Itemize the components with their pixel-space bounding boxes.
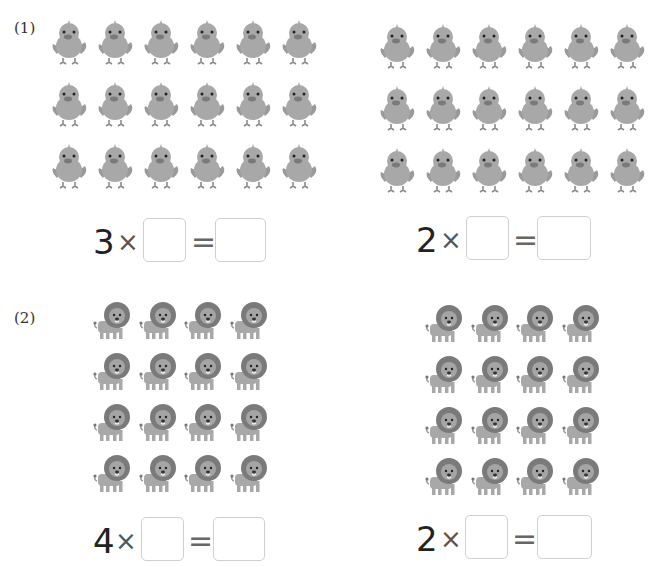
chick-grid-right: [377, 22, 656, 202]
chick-grid-left: [49, 18, 339, 198]
chick-icon: [561, 22, 601, 70]
chick-icon: [469, 84, 509, 132]
lion-icon: [92, 352, 132, 392]
chick-icon: [187, 142, 227, 190]
chick-icon: [515, 22, 555, 70]
product-answer-box[interactable]: [537, 216, 591, 260]
chick-icon: [233, 80, 273, 128]
equation-1b: 2 × =: [416, 216, 596, 262]
chick-icon: [561, 22, 601, 70]
chick-icon: [187, 80, 227, 128]
multiplicand: 2: [416, 519, 438, 559]
chick-icon: [377, 146, 417, 194]
problem-1-label: (1): [14, 19, 35, 37]
product-answer-box[interactable]: [215, 218, 266, 262]
lion-icon: [229, 301, 269, 341]
chick-icon: [469, 22, 509, 70]
chick-icon: [49, 142, 89, 190]
chick-icon: [561, 146, 601, 194]
lion-icon: [515, 304, 555, 344]
lion-icon: [470, 406, 510, 446]
lion-icon: [138, 403, 178, 443]
lion-icon: [515, 355, 555, 395]
lion-icon: [138, 352, 178, 392]
lion-icon: [229, 454, 269, 494]
chick-icon: [423, 22, 463, 70]
chick-icon: [233, 80, 273, 128]
chick-icon: [49, 18, 89, 66]
equals-sign: =: [513, 225, 538, 255]
multiplier-answer-box[interactable]: [465, 515, 508, 559]
lion-icon: [561, 406, 601, 446]
lion-icon: [470, 304, 510, 344]
chick-icon: [377, 22, 417, 70]
lion-icon: [92, 352, 132, 392]
chick-icon: [561, 146, 601, 194]
lion-icon: [424, 355, 464, 395]
chick-icon: [279, 18, 319, 66]
chick-icon: [469, 22, 509, 70]
times-sign: ×: [117, 227, 139, 257]
lion-icon: [470, 355, 510, 395]
lion-icon: [183, 352, 223, 392]
product-answer-box[interactable]: [213, 517, 265, 561]
chick-icon: [377, 146, 417, 194]
multiplier-answer-box[interactable]: [141, 517, 184, 561]
chick-icon: [279, 142, 319, 190]
lion-icon: [424, 304, 464, 344]
lion-icon: [424, 304, 464, 344]
lion-icon: [561, 355, 601, 395]
lion-icon: [92, 301, 132, 341]
lion-icon: [561, 457, 601, 497]
lion-icon: [561, 304, 601, 344]
chick-icon: [49, 80, 89, 128]
lion-icon: [515, 406, 555, 446]
equals-sign: =: [512, 524, 537, 554]
chick-icon: [95, 80, 135, 128]
equation-2a: 4 × =: [93, 517, 273, 563]
chick-icon: [279, 80, 319, 128]
lion-icon: [470, 457, 510, 497]
multiplier-answer-box[interactable]: [143, 218, 186, 262]
lion-icon: [183, 454, 223, 494]
chick-icon: [95, 142, 135, 190]
lion-icon: [183, 454, 223, 494]
lion-icon: [515, 406, 555, 446]
chick-icon: [515, 84, 555, 132]
times-sign: ×: [440, 225, 462, 255]
lion-icon: [515, 304, 555, 344]
lion-icon: [470, 406, 510, 446]
multiplicand: 3: [93, 222, 115, 262]
times-sign: ×: [440, 524, 462, 554]
equals-sign: =: [188, 526, 213, 556]
chick-icon: [187, 80, 227, 128]
chick-icon: [423, 22, 463, 70]
chick-icon: [95, 18, 135, 66]
chick-icon: [515, 146, 555, 194]
chick-icon: [279, 18, 319, 66]
chick-icon: [561, 84, 601, 132]
chick-icon: [377, 22, 417, 70]
lion-icon: [424, 355, 464, 395]
lion-icon: [561, 406, 601, 446]
chick-icon: [141, 80, 181, 128]
lion-icon: [183, 301, 223, 341]
chick-icon: [141, 18, 181, 66]
chick-icon: [187, 142, 227, 190]
lion-icon: [561, 304, 601, 344]
chick-icon: [95, 142, 135, 190]
equation-1a: 3 × =: [93, 218, 273, 264]
chick-icon: [423, 146, 463, 194]
lion-icon: [229, 352, 269, 392]
chick-icon: [141, 142, 181, 190]
chick-icon: [377, 84, 417, 132]
chick-icon: [141, 80, 181, 128]
multiplier-answer-box[interactable]: [466, 216, 509, 260]
lion-icon: [229, 403, 269, 443]
chick-icon: [607, 146, 647, 194]
multiplicand: 4: [93, 521, 115, 561]
product-answer-box[interactable]: [537, 515, 592, 559]
lion-icon: [92, 403, 132, 443]
chick-icon: [377, 84, 417, 132]
lion-icon: [561, 457, 601, 497]
